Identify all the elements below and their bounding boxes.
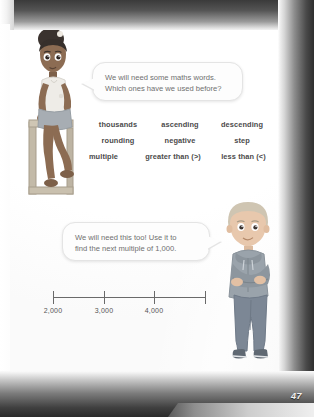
word-negative: negative [150, 136, 210, 145]
word-multiple: multiple [72, 152, 135, 161]
page-number: 47 [291, 391, 302, 401]
number-line-label-4000: 4,000 [145, 307, 164, 314]
speech-bubble-girl: We will need some maths words. Which one… [92, 62, 243, 101]
scan-edge-right [278, 0, 314, 417]
scan-edge-top [0, 0, 314, 30]
scan-edge-bottom-notch [168, 403, 314, 417]
number-line-tick [154, 291, 155, 304]
bubble-1-line-2: Which ones have we used before? [105, 83, 231, 94]
girl-illustration [20, 24, 94, 202]
word-thousands: thousands [86, 120, 150, 129]
word-less-than: less than (<) [211, 152, 276, 161]
word-row: thousands ascending descending [86, 120, 276, 129]
maths-word-list: thousands ascending descending rounding … [86, 120, 276, 168]
number-line-tick [104, 291, 105, 304]
word-row: multiple greater than (>) less than (<) [72, 152, 276, 161]
word-rounding: rounding [86, 136, 150, 145]
number-line-axis [53, 297, 205, 298]
word-ascending: ascending [150, 120, 210, 129]
bubble-1-line-1: We will need some maths words. [105, 72, 231, 83]
textbook-page-scan: We will need some maths words. Which one… [0, 0, 314, 417]
hand-right [231, 278, 243, 286]
number-line-tick [53, 291, 54, 304]
bubble-tail-left-icon [82, 78, 95, 90]
number-line: 2,000 3,000 4,000 [40, 288, 220, 320]
word-greater-than: greater than (>) [135, 152, 211, 161]
word-step: step [210, 136, 274, 145]
bubble-2-line-1: We will need this too! Use it to [75, 232, 198, 243]
speech-bubble-boy: We will need this too! Use it to find th… [62, 222, 210, 261]
scan-edge-left [0, 24, 10, 384]
hand-left [254, 276, 266, 284]
girl-character [20, 24, 94, 202]
head [230, 210, 266, 247]
word-row: rounding negative step [86, 136, 276, 145]
number-line-label-2000: 2,000 [44, 307, 63, 314]
bubble-2-line-2: find the next multiple of 1,000. [75, 243, 198, 254]
word-descending: descending [210, 120, 274, 129]
number-line-tick [205, 291, 206, 304]
number-line-label-3000: 3,000 [95, 307, 114, 314]
